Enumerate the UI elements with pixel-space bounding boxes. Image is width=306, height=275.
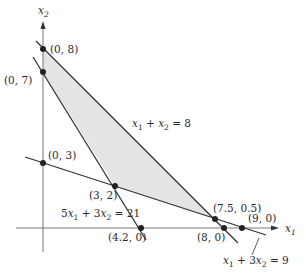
point-0-7	[40, 69, 46, 75]
point-label-3-2: (3, 2)	[89, 189, 117, 201]
leader-line	[252, 238, 259, 255]
point-label-0-7: (0, 7)	[4, 74, 32, 86]
y-axis-arrow-icon	[41, 21, 46, 29]
point-7.5-0.5	[212, 216, 218, 222]
point-label-4.2-0: (4.2, 0)	[108, 231, 146, 243]
equation-label-x1-plus-3x2-eq-9: x1 + 3x2 = 9	[223, 254, 289, 269]
point-0-3	[40, 160, 46, 166]
equation-label-5x1-plus-3x2-eq-21: 5x1 + 3x2 = 21	[61, 207, 140, 222]
point-0-8	[40, 46, 46, 52]
point-9-0	[239, 225, 245, 231]
y-axis-label: x2	[38, 4, 49, 19]
lp-diagram: x1 x2 (0, 8) (0, 7) (0, 3) (3, 2) (4.2, …	[0, 0, 306, 275]
equation-label-x1-plus-x2-eq-8: x1 + x2 = 8	[132, 117, 191, 132]
point-label-0-8: (0, 8)	[50, 43, 78, 55]
point-label-8-0: (8, 0)	[197, 231, 225, 243]
x-axis-label: x1	[285, 222, 296, 237]
diagram-canvas: x1 x2 (0, 8) (0, 7) (0, 3) (3, 2) (4.2, …	[0, 0, 306, 275]
x-axis-arrow-icon	[271, 226, 279, 231]
point-label-0-3: (0, 3)	[48, 149, 76, 161]
point-label-9-0: (9, 0)	[248, 212, 276, 224]
